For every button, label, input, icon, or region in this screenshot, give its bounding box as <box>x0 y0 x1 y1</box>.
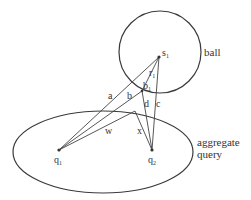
label-q2: q2 <box>148 154 156 166</box>
point-s1 <box>157 55 160 58</box>
label-ball: ball <box>204 46 221 58</box>
diagram-canvas: s1 q1 q2 a b b1 r1 c d w x ball aggregat… <box>0 0 251 200</box>
label-query: query <box>197 148 223 160</box>
label-aggregate: aggregate <box>197 136 240 148</box>
label-w: w <box>105 125 113 136</box>
label-x: x <box>137 125 142 136</box>
label-q1: q1 <box>54 154 62 166</box>
label-a: a <box>108 90 113 101</box>
label-c: c <box>156 98 161 109</box>
label-b1: b1 <box>143 80 151 92</box>
point-q1 <box>57 148 60 151</box>
ball-circle <box>119 11 201 93</box>
label-s1: s1 <box>162 47 169 59</box>
segment-w <box>59 111 135 150</box>
label-d: d <box>144 98 149 109</box>
query-ellipse <box>13 111 193 193</box>
label-r1: r1 <box>149 67 155 79</box>
label-b: b <box>127 90 132 101</box>
point-q2 <box>150 148 153 151</box>
